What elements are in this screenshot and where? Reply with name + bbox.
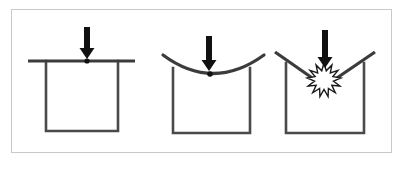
load-arrow-3 [318,30,333,68]
arrow-shaft-2 [206,36,212,60]
diagram-canvas [0,0,405,169]
panel-stage-undeformed [28,27,135,131]
contact-point-dot-1 [84,58,89,63]
arrow-head-2 [202,60,217,71]
panel-stage-deflected [163,36,264,133]
panel-stage-fractured [275,30,375,133]
load-arrow-2 [202,36,217,71]
figure-root [0,0,405,169]
arrow-head-1 [80,48,95,59]
load-arrow-1 [80,27,95,59]
container-u-shape-2 [173,68,250,133]
contact-point-dot-2 [207,71,213,77]
container-u-shape-1 [46,61,118,131]
fracture-starburst [307,63,341,97]
arrow-shaft-3 [322,30,328,57]
arrow-shaft-1 [84,27,90,48]
